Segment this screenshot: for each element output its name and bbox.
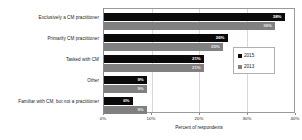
bar-value-label: 21% xyxy=(192,55,201,63)
x-tick-label: 20% xyxy=(195,116,204,121)
x-tick-mark xyxy=(151,113,152,115)
category-label: Primarily CM practitioner xyxy=(0,36,99,41)
x-tick-mark xyxy=(199,113,200,115)
bar-2015: 21% xyxy=(104,55,204,63)
x-tick-label: 30% xyxy=(243,116,252,121)
bar-value-label: 26% xyxy=(216,34,225,42)
legend-item-2013: 2013 xyxy=(238,62,274,72)
category-axis-labels: Exclusively a CM practitioner Primarily … xyxy=(0,8,101,113)
x-tick-label: 10% xyxy=(147,116,156,121)
bar-value-label: 9% xyxy=(137,85,143,93)
bar-2013: 36% xyxy=(104,22,275,30)
chart-legend: 2015 2013 xyxy=(233,47,275,74)
bar-2015: 38% xyxy=(104,13,285,21)
bar-2015: 6% xyxy=(104,97,133,105)
legend-swatch-icon xyxy=(238,54,242,58)
category-label: Exclusively a CM practitioner xyxy=(0,15,99,20)
bar-chart: Exclusively a CM practitioner Primarily … xyxy=(0,0,302,140)
bar-value-label: 25% xyxy=(211,43,220,51)
x-axis-title: Percent of respondents xyxy=(103,125,295,130)
x-tick-label: 0% xyxy=(100,116,106,121)
x-tick-mark xyxy=(247,113,248,115)
bar-2015: 26% xyxy=(104,34,228,42)
bar-2013: 9% xyxy=(104,85,147,93)
x-tick-mark xyxy=(103,113,104,115)
bar-2013: 21% xyxy=(104,64,204,72)
bar-value-label: 21% xyxy=(192,64,201,72)
x-tick-mark xyxy=(295,113,296,115)
legend-label: 2013 xyxy=(244,64,254,70)
bar-value-label: 38% xyxy=(273,13,282,21)
category-label: Other xyxy=(0,78,99,83)
bar-value-label: 6% xyxy=(123,97,129,105)
x-axis: 0% 10% 20% 30% 40% xyxy=(103,113,295,123)
bar-value-label: 36% xyxy=(263,22,272,30)
category-label: Familiar with CM, but not a practitioner xyxy=(0,99,99,104)
legend-swatch-icon xyxy=(238,65,242,69)
x-tick-label: 40% xyxy=(291,116,300,121)
bar-value-label: 9% xyxy=(137,76,143,84)
legend-label: 2015 xyxy=(244,53,254,59)
category-label: Tasked with CM xyxy=(0,57,99,62)
bar-2013: 25% xyxy=(104,43,223,51)
bar-2015: 9% xyxy=(104,76,147,84)
legend-item-2015: 2015 xyxy=(238,51,274,61)
